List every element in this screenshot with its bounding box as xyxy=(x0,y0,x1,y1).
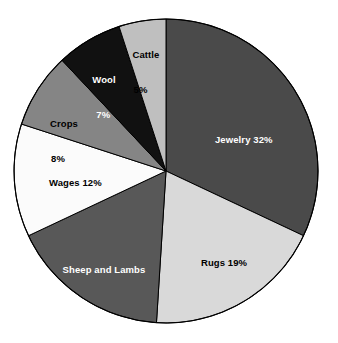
pie-slice-group xyxy=(14,19,318,323)
pie-chart-figure: Jewelry 32% Rugs 19% Sheep and Lambs 17%… xyxy=(0,0,338,343)
pie-chart-svg xyxy=(0,0,338,343)
